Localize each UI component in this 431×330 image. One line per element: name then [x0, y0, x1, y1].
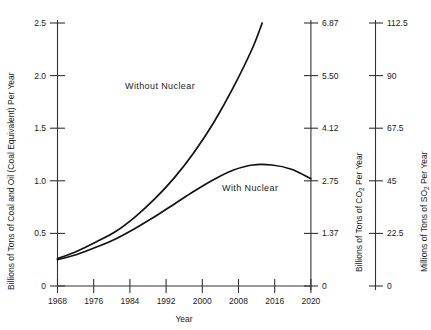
x-tick-label-2016: 2016	[265, 296, 284, 306]
x-tick-label-1968: 1968	[48, 296, 67, 306]
so2-tick-label-22.5: 22.5	[387, 228, 404, 238]
primary-tick-label-0.5: 0.5	[34, 228, 46, 238]
co2-axis-title: Billions of Tons of CO2 Per Year	[354, 152, 365, 272]
co2-tick-label-5.50: 5.50	[322, 71, 339, 81]
x-tick-label-1992: 1992	[157, 296, 176, 306]
primary-axis-title: Billions of Tons of Coal and Oil (Coal E…	[6, 72, 16, 290]
x-axis-title: Year	[175, 314, 192, 324]
co2-tick-label-1.37: 1.37	[322, 228, 339, 238]
primary-tick-label-1.0: 1.0	[34, 176, 46, 186]
primary-tick-label-2.5: 2.5	[34, 18, 46, 28]
co2-y-axis: 6.87 5.50 4.12 2.75 1.37 0 Billions of T…	[304, 18, 365, 291]
chart-svg: 2.5 2.0 1.5 1.0 0.5 0 Billions of Tons o…	[0, 0, 431, 330]
x-tick-label-2008: 2008	[229, 296, 248, 306]
primary-tick-label-1.5: 1.5	[34, 123, 46, 133]
primary-y-axis: 2.5 2.0 1.5 1.0 0.5 0 Billions of Tons o…	[6, 18, 65, 291]
primary-tick-label-2.0: 2.0	[34, 71, 46, 81]
series-label-with-nuclear: With Nuclear	[222, 183, 278, 193]
co2-tick-label-2.75: 2.75	[322, 176, 339, 186]
so2-axis-title-suffix: Per Year	[419, 151, 429, 186]
x-tick-label-2020: 2020	[301, 296, 320, 306]
series-with-nuclear-curve	[58, 164, 311, 259]
so2-axis-title-prefix: Millions of Tons of SO	[419, 190, 429, 272]
so2-y-axis: 112.5 90 67.5 45 22.5 0 Millions of Tons…	[369, 18, 430, 291]
so2-tick-label-90: 90	[387, 71, 397, 81]
so2-tick-label-45: 45	[387, 176, 397, 186]
co2-axis-title-prefix: Billions of Tons of CO	[354, 191, 364, 272]
x-tick-label-1976: 1976	[84, 296, 103, 306]
so2-tick-label-0: 0	[387, 281, 392, 291]
chart-figure: 2.5 2.0 1.5 1.0 0.5 0 Billions of Tons o…	[0, 0, 431, 330]
series-label-without-nuclear: Without Nuclear	[125, 81, 195, 91]
x-tick-label-1984: 1984	[120, 296, 139, 306]
so2-axis-title: Millions of Tons of SO2 Per Year	[419, 151, 430, 272]
primary-tick-label-0: 0	[41, 281, 46, 291]
so2-tick-label-67.5: 67.5	[387, 123, 404, 133]
co2-axis-title-suffix: Per Year	[354, 152, 364, 187]
so2-tick-label-112.5: 112.5	[387, 18, 408, 28]
series-without-nuclear-curve	[58, 23, 263, 259]
co2-tick-label-4.12: 4.12	[322, 123, 339, 133]
x-tick-label-2000: 2000	[193, 296, 212, 306]
x-axis: 1968 1976 1984 1992 2000 2008 2016 2020 …	[48, 279, 321, 324]
data-curves	[58, 23, 311, 260]
co2-tick-label-0: 0	[322, 281, 327, 291]
co2-tick-label-6.87: 6.87	[322, 18, 339, 28]
